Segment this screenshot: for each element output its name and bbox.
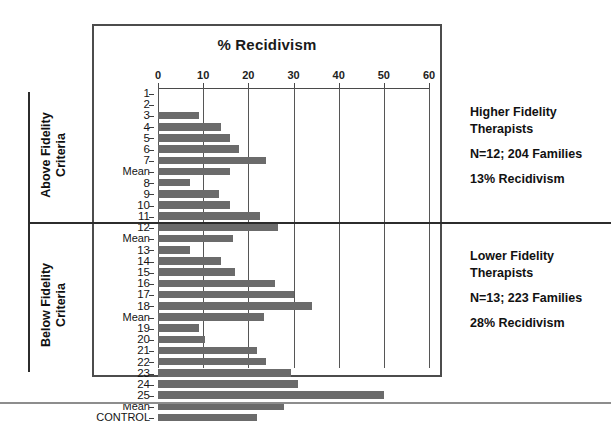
- bar-row: [158, 412, 429, 423]
- bar-row: [158, 99, 429, 110]
- y-tick-mark: [149, 217, 154, 218]
- bar-row: [158, 155, 429, 166]
- bar-row: [158, 390, 429, 401]
- bar-row: [158, 345, 429, 356]
- y-tick-label-2-1: 2: [60, 99, 155, 110]
- annotation-higher-fidelity-n: N=12; 204 Families: [470, 146, 582, 163]
- fidelity-group-divider: [28, 222, 611, 224]
- bar-14-15: [158, 257, 221, 265]
- group-axis-rule: [28, 92, 30, 372]
- bar-19-21: [158, 324, 199, 332]
- y-tick-mark: [149, 206, 154, 207]
- bar-row: [158, 312, 429, 323]
- bar-15-16: [158, 268, 235, 276]
- bar-12-12: [158, 224, 278, 232]
- bar-row: [158, 289, 429, 300]
- y-tick-mark: [149, 116, 154, 117]
- bar-22-24: [158, 358, 266, 366]
- bar-7-6: [158, 157, 266, 165]
- y-tick-label-22-24: 22: [60, 357, 155, 368]
- y-tick-mark: [149, 273, 154, 274]
- footer-rule: [0, 402, 611, 404]
- y-tick-mark: [149, 306, 154, 307]
- y-tick-mark: [149, 351, 154, 352]
- bar-18-19: [158, 302, 312, 310]
- y-tick-mark: [149, 284, 154, 285]
- bar-row: [158, 144, 429, 155]
- annotation-lower-fidelity-n: N=13; 223 Families: [470, 290, 582, 307]
- bar-5-4: [158, 134, 230, 142]
- bar-row: [158, 222, 429, 233]
- bar-row: [158, 122, 429, 133]
- bar-row: [158, 323, 429, 334]
- bar-row: [158, 267, 429, 278]
- y-tick-mark: [149, 385, 154, 386]
- y-tick-label-mean-13: Mean: [60, 233, 155, 244]
- bar-25-27: [158, 391, 384, 399]
- x-tick-label-60: 60: [414, 69, 444, 81]
- x-tick-label-10: 10: [188, 69, 218, 81]
- bar-control-29: [158, 414, 257, 422]
- y-tick-mark: [149, 194, 154, 195]
- y-tick-label-5-4: 5: [60, 133, 155, 144]
- y-tick-mark: [149, 262, 154, 263]
- x-tick-label-50: 50: [369, 69, 399, 81]
- bar-10-10: [158, 201, 230, 209]
- bar-rows: [158, 88, 429, 424]
- bar-11-11: [158, 212, 260, 220]
- group-label-below-fidelity: Below Fidelity Criteria: [39, 245, 69, 365]
- chart-title: % Recidivism: [92, 36, 442, 53]
- bar-row: [158, 178, 429, 189]
- y-tick-label-control-29: CONTROL: [60, 412, 155, 423]
- y-tick-label-3-2: 3: [60, 110, 155, 121]
- bar-row: [158, 211, 429, 222]
- annotation-lower-fidelity-title: Lower Fidelity Therapists: [470, 248, 554, 282]
- x-tick-label-40: 40: [324, 69, 354, 81]
- bar-row: [158, 189, 429, 200]
- y-tick-label-8-8: 8: [60, 178, 155, 189]
- bar-20-22: [158, 336, 205, 344]
- y-tick-mark: [149, 94, 154, 95]
- bar-23-25: [158, 369, 291, 377]
- y-tick-label-6-5: 6: [60, 144, 155, 155]
- y-tick-mark: [149, 127, 154, 128]
- bar-17-18: [158, 291, 294, 299]
- bar-row: [158, 301, 429, 312]
- plot-area: [158, 88, 429, 368]
- bar-9-9: [158, 190, 219, 198]
- y-tick-mark: [149, 418, 154, 419]
- bar-row: [158, 368, 429, 379]
- y-tick-mark: [149, 340, 154, 341]
- annotation-higher-fidelity-title: Higher Fidelity Therapists: [470, 104, 557, 138]
- bar-mean-13: [158, 235, 233, 243]
- y-tick-mark: [149, 318, 154, 319]
- group-label-above-fidelity: Above Fidelity Criteria: [39, 95, 69, 215]
- bar-4-3: [158, 123, 221, 131]
- y-tick-mark: [149, 228, 154, 229]
- bar-row: [158, 245, 429, 256]
- y-tick-mark: [149, 250, 154, 251]
- y-tick-mark: [149, 295, 154, 296]
- y-tick-mark: [149, 374, 154, 375]
- y-axis-labels: 1234567Mean89101112Mean131415161718Mean1…: [60, 88, 155, 424]
- y-tick-label-1-0: 1: [60, 88, 155, 99]
- y-tick-label-17-18: 17: [60, 289, 155, 300]
- y-tick-mark: [149, 362, 154, 363]
- x-tick-label-0: 0: [143, 69, 173, 81]
- y-tick-mark: [149, 239, 154, 240]
- bar-row: [158, 110, 429, 121]
- bar-24-26: [158, 380, 298, 388]
- y-tick-mark: [149, 172, 154, 173]
- bar-3-2: [158, 112, 199, 120]
- bar-16-17: [158, 280, 275, 288]
- x-tick-label-30: 30: [279, 69, 309, 81]
- bar-21-23: [158, 347, 257, 355]
- bar-mean-7: [158, 168, 230, 176]
- bar-6-5: [158, 145, 239, 153]
- y-tick-mark: [149, 396, 154, 397]
- y-tick-mark: [149, 407, 154, 408]
- y-tick-label-21-23: 21: [60, 345, 155, 356]
- bar-mean-20: [158, 313, 264, 321]
- y-tick-mark: [149, 105, 154, 106]
- bar-row: [158, 357, 429, 368]
